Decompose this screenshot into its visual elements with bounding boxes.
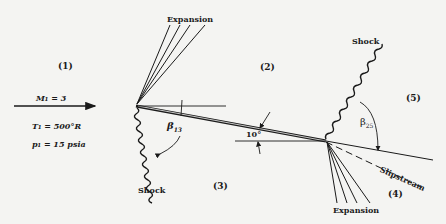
- trailing-edge-shock: [326, 44, 383, 139]
- flat-plate: [136, 106, 326, 141]
- expansion-bottom-label: Expansion: [333, 206, 379, 214]
- mach-number-label: M₁ = 3: [36, 94, 66, 102]
- beta13-angle-arc: [160, 136, 180, 154]
- region-2-label: (2): [260, 63, 275, 72]
- expansion-top-label: Expansion: [167, 15, 213, 23]
- temperature-label: T₁ = 500°R: [32, 122, 81, 130]
- angle-of-attack-arrow-top: [260, 112, 270, 128]
- region-4-label: (4): [388, 190, 403, 199]
- shock-top-right-label: Shock: [352, 37, 379, 45]
- region-5-label: (5): [406, 94, 421, 103]
- beta13-label: β13: [167, 121, 182, 133]
- downstream-flow-line: [326, 141, 433, 160]
- pressure-label: p₁ = 15 psia: [32, 140, 86, 148]
- shock-bottom-left-label: Shock: [138, 186, 165, 194]
- region-3-label: (3): [213, 182, 228, 191]
- region-1-label: (1): [58, 62, 73, 71]
- beta13-subscript: 13: [174, 126, 182, 133]
- beta25-subscript: 25: [366, 122, 374, 129]
- leading-edge-expansion-fan: [137, 25, 205, 104]
- angle-of-attack-label: 10°: [246, 130, 261, 138]
- beta25-label: β25: [360, 117, 373, 129]
- diagram-canvas: (1) (2) (3) (4) (5) M₁ = 3 T₁ = 500°R p₁…: [0, 0, 446, 224]
- angle-of-attack-arrow-bottom: [258, 142, 260, 154]
- trailing-edge-expansion-fan: [327, 142, 370, 203]
- beta13-symbol: β: [167, 120, 174, 131]
